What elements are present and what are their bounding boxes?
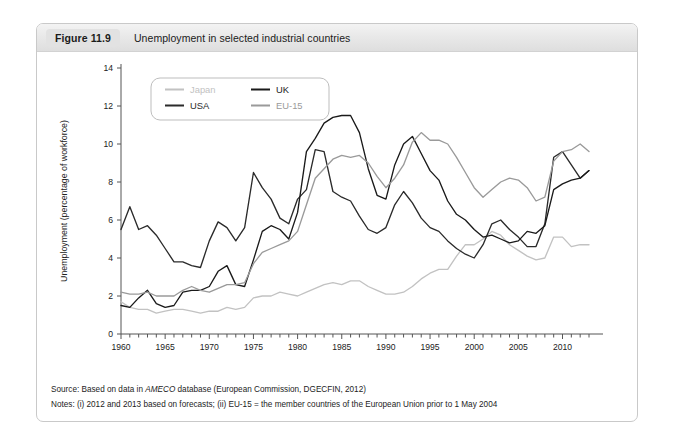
x-axis-tick-label: 1965	[156, 342, 175, 352]
x-axis-tick-label: 1970	[200, 342, 219, 352]
unemployment-line-chart: 0246810121419601965197019751980198519901…	[37, 52, 637, 364]
x-axis-tick-label: 1975	[244, 342, 263, 352]
notes-line: Notes: (i) 2012 and 2013 based on foreca…	[51, 397, 637, 412]
figure-title-bar: Figure 11.9 Unemployment in selected ind…	[37, 24, 637, 52]
legend-label-uk: UK	[276, 84, 290, 95]
series-line-uk	[121, 116, 589, 308]
x-axis-tick-label: 2010	[553, 342, 572, 352]
series-line-japan	[121, 231, 589, 313]
figure-notes: Source: Based on data in AMECO database …	[37, 382, 637, 421]
x-axis-tick-label: 1995	[420, 342, 439, 352]
source-prefix: Source: Based on data in	[51, 385, 145, 394]
source-database-name: AMECO	[145, 385, 175, 394]
y-axis-tick-label: 8	[108, 177, 113, 187]
legend-label-usa: USA	[190, 100, 210, 111]
y-axis-tick-label: 10	[103, 139, 113, 149]
y-axis-tick-label: 0	[108, 329, 113, 339]
chart-area: 0246810121419601965197019751980198519901…	[37, 52, 637, 364]
x-axis-tick-label: 1980	[288, 342, 307, 352]
y-axis-tick-label: 12	[103, 101, 113, 111]
y-axis-tick-label: 2	[108, 291, 113, 301]
y-axis-tick-label: 6	[108, 215, 113, 225]
y-axis-title: Unemployment (percentage of workforce)	[59, 120, 69, 282]
legend-label-eu-15: EU-15	[276, 100, 303, 111]
x-axis-tick-label: 1985	[332, 342, 351, 352]
source-note: Source: Based on data in AMECO database …	[51, 382, 637, 397]
x-axis-tick-label: 2005	[509, 342, 528, 352]
y-axis-tick-label: 4	[108, 253, 113, 263]
legend-label-japan: Japan	[190, 84, 216, 95]
figure-number-badge: Figure 11.9	[46, 29, 120, 47]
series-line-eu-15	[121, 133, 589, 296]
x-axis-tick-label: 1990	[376, 342, 395, 352]
legend-box	[151, 78, 329, 120]
source-suffix: database (European Commission, DGECFIN, …	[175, 385, 366, 394]
figure-title: Unemployment in selected industrial coun…	[134, 32, 350, 44]
series-line-usa	[121, 150, 589, 268]
figure-card: Figure 11.9 Unemployment in selected ind…	[36, 23, 638, 422]
x-axis-tick-label: 1960	[111, 342, 130, 352]
x-axis-tick-label: 2000	[465, 342, 484, 352]
y-axis-tick-label: 14	[103, 63, 113, 73]
